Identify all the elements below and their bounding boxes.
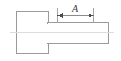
dimension-arrow-right-icon (89, 13, 94, 17)
dimension-label-a: A (71, 3, 79, 14)
technical-drawing-canvas: A (0, 0, 121, 61)
dimension-arrow-left-icon (58, 13, 63, 17)
drawing-svg: A (0, 0, 121, 61)
